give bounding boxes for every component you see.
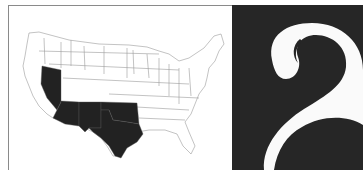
state-new-mexico	[79, 102, 101, 132]
highlighted-states	[41, 66, 143, 158]
us-map-figure	[8, 5, 232, 170]
chapter-numeral-panel: 2	[232, 5, 363, 170]
state-nevada	[41, 66, 61, 110]
us-map	[9, 6, 233, 170]
